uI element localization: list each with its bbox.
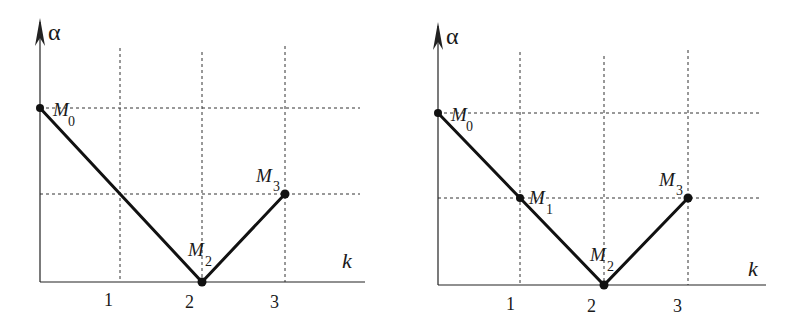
x-tick-3: 3 (270, 292, 279, 312)
label-m2: M (589, 244, 607, 265)
label-m3-sub: 3 (676, 183, 683, 198)
label-m2-sub: 2 (607, 259, 614, 274)
x-tick-1: 1 (104, 290, 113, 310)
x-tick-3: 3 (673, 296, 682, 316)
figure: α k 1 2 3 M 0 M 2 M 3 α k 1 2 3 M 0 (0, 0, 793, 333)
label-m2-sub: 2 (205, 254, 212, 269)
point-m1 (516, 194, 524, 202)
point-m0 (36, 104, 44, 112)
path-line (438, 113, 688, 285)
y-axis-label: α (48, 19, 61, 45)
point-m2 (198, 278, 207, 287)
x-tick-2: 2 (587, 296, 596, 316)
label-m1-sub: 1 (546, 202, 553, 217)
label-m1: M (528, 187, 546, 208)
right-chart: α k 1 2 3 M 0 M 1 M 2 M 3 (433, 22, 766, 316)
x-tick-2: 2 (185, 292, 194, 312)
path-line (40, 108, 285, 282)
label-m3: M (255, 165, 273, 186)
label-m0-sub: 0 (466, 119, 473, 134)
left-chart: α k 1 2 3 M 0 M 2 M 3 (35, 18, 365, 312)
x-axis-label: k (748, 256, 759, 281)
label-m2: M (187, 239, 205, 260)
y-axis-label: α (446, 23, 459, 49)
point-m0 (434, 109, 442, 117)
label-m3-sub: 3 (273, 179, 280, 194)
point-m2 (600, 281, 609, 290)
x-tick-1: 1 (506, 294, 515, 314)
point-m3 (684, 194, 693, 203)
x-axis-label: k (342, 248, 353, 273)
point-m3 (281, 190, 290, 199)
label-m3: M (658, 169, 676, 190)
label-m0-sub: 0 (68, 114, 75, 129)
